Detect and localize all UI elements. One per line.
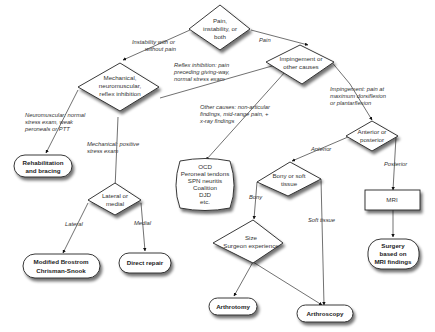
edge-label-posterior: Posterior	[384, 161, 408, 167]
node-text: Modified Brostrom	[34, 258, 89, 265]
node-text: Arthrotomy	[216, 303, 250, 310]
node-text: Rehabilitation	[23, 159, 64, 166]
node-text: MRI	[386, 196, 398, 203]
edge-label-neuromuscular: peroneals or PTT	[24, 126, 70, 132]
node-text: etc.	[200, 198, 210, 205]
node-text: other causes	[283, 63, 318, 70]
edge-label-reflex: preceding giving-way,	[173, 69, 230, 75]
decision-impingement: Impingement or other causes	[266, 45, 334, 84]
edge-label-pain: Pain	[259, 37, 271, 43]
node-text: Size	[245, 234, 258, 241]
decision-pain-instability: Pain, instability, or both	[189, 5, 250, 50]
edge-label-other-causes: x-ray findings	[199, 118, 235, 124]
node-text: Anterior or	[358, 128, 387, 135]
edge-root-to-mechanical	[123, 30, 190, 60]
terminal-rehabilitation: Rehabilitation and bracing	[14, 155, 72, 177]
node-text: SPN neuritis	[188, 177, 222, 184]
edge-label-impingement: maximum dorsiflexion	[330, 93, 386, 99]
decision-size-surgeon: Size Surgeon experience	[213, 220, 283, 263]
edge-label-instability: Instability with or	[132, 39, 176, 45]
decision-anterior-posterior: Anterior or posterior	[346, 121, 398, 151]
edge-size-to-arthrotomy	[234, 262, 253, 296]
node-text: medial	[106, 200, 124, 207]
flowchart-canvas: Pain, instability, or both Mechanical, n…	[0, 0, 435, 332]
edge-label-mechanical: Mechanical: positive	[87, 141, 140, 147]
node-text: Surgeon experience	[223, 242, 279, 249]
terminal-arthroscopy: Arthroscopy	[297, 305, 353, 322]
node-text: Direct repair	[127, 259, 164, 266]
node-text: OCD	[198, 163, 212, 170]
edge-label-soft-tissue: Soft tissue	[308, 217, 336, 223]
node-text: Mechanical,	[103, 74, 136, 81]
node-text: Impingement or	[280, 55, 323, 62]
node-text: Chrisman-Snook	[36, 267, 86, 274]
node-text: instability, or	[203, 25, 237, 32]
node-text: neuromuscular,	[99, 82, 142, 89]
edge-label-reflex: normal stress exam	[174, 76, 225, 82]
node-text: and bracing	[25, 167, 60, 174]
node-text: tissue	[281, 180, 298, 187]
edge-medial	[141, 203, 145, 251]
edge-label-mechanical: stress exam	[87, 148, 118, 154]
terminal-arthrotomy: Arthrotomy	[209, 298, 257, 315]
node-text: reflex inhibition	[99, 90, 141, 97]
node-text: Arthroscopy	[307, 310, 344, 317]
edge-label-reflex: Reflex inhibition: pain	[174, 62, 229, 68]
edge-label-neuromuscular: Neuromuscular: normal	[25, 112, 86, 118]
node-text: both	[214, 33, 227, 40]
node-text: Peroneal tendons	[181, 170, 230, 177]
node-text: Coalition	[193, 184, 218, 191]
decision-lateral-medial: Lateral or medial	[88, 183, 141, 215]
node-text: Pain,	[213, 17, 227, 24]
edge-soft-tissue	[321, 179, 324, 305]
terminal-other-diagnoses: OCD Peroneal tendons SPN neuritis Coalit…	[176, 159, 234, 211]
edge-bony	[254, 182, 257, 219]
node-text: Bony or soft	[272, 172, 305, 179]
edge-label-impingement: Impingement: pain at	[330, 86, 385, 92]
edge-label-impingement: or plantarflexion	[330, 100, 371, 106]
node-text: posterior	[360, 136, 384, 143]
edge-label-anterior: Anterior	[310, 146, 332, 152]
edge-label-bony: Bony	[249, 194, 263, 200]
edge-size-to-arthroscopy	[253, 262, 322, 305]
terminal-direct-repair: Direct repair	[119, 253, 171, 273]
decision-bony-soft: Bony or soft tissue	[257, 162, 321, 196]
edge-label-other-causes: findings, mid-range pain, +	[200, 111, 269, 117]
edge-label-medial: Medial	[134, 220, 152, 226]
node-text: Lateral or	[102, 192, 128, 199]
decision-mechanical: Mechanical, neuromuscular, reflex inhibi…	[78, 63, 159, 111]
edge-label-other-causes: Other causes: non-articular	[200, 104, 271, 110]
process-mri: MRI	[365, 190, 420, 210]
node-text: Surgery	[381, 242, 405, 249]
node-text: DJD	[199, 191, 212, 198]
edge-lateral	[63, 203, 88, 253]
edge-label-neuromuscular: stress exam, weak	[25, 119, 74, 125]
edge-label-instability: without pain	[145, 46, 176, 52]
terminal-surgery-mri: Surgery based on MRI findings	[368, 239, 419, 269]
edge-label-lateral: Lateral	[65, 221, 83, 227]
terminal-brostrom: Modified Brostrom Chrisman-Snook	[23, 254, 100, 278]
node-text: based on	[379, 250, 406, 257]
node-text: MRI findings	[374, 258, 412, 265]
